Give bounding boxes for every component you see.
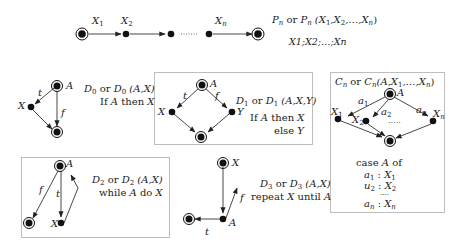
control-structures-diagram: X1 X2 Xn Pn or Pn (X1,X2,…,Xn) X1;X2;…;X… <box>0 0 465 250</box>
cn-node-x1-label: X1 <box>331 106 343 121</box>
d0-node-a-label: A <box>66 80 73 91</box>
d2-node-x-label: X <box>51 218 58 229</box>
d1-node-a-label: A <box>210 78 217 89</box>
seq-code: X1;X2;…;Xn <box>289 36 347 47</box>
d1-title: D1 or D1 (A,X,Y) <box>236 95 316 110</box>
d3-edge-t-label: t <box>205 226 209 237</box>
seq-title: Pn or Pn (X1,X2,…,Xn) <box>272 14 377 29</box>
cn-case-header: case A of <box>356 157 402 168</box>
cn-case-n: an : Xn <box>364 198 396 213</box>
d0-edge-f-label: f <box>61 107 65 118</box>
d2-edge-f-label: f <box>39 184 43 195</box>
d1-description-line2: else Y <box>274 125 304 136</box>
d2-node-a-label: A <box>66 158 73 169</box>
d1-edge-f-label: f <box>215 90 219 101</box>
cn-node-xn-label: Xn <box>433 108 445 123</box>
cn-edge-an-label: an <box>416 104 426 119</box>
d0-description: If A then X <box>100 96 154 107</box>
seq-label-xn: Xn <box>215 15 227 30</box>
d3-node-a-label: A <box>229 217 236 228</box>
d1-node-x-label: X <box>158 106 165 117</box>
d1-description-line1: If A then X <box>250 112 304 123</box>
cn-node-x2-label: X2 <box>352 114 364 129</box>
seq-label-x1: X1 <box>92 15 104 30</box>
d0-edge-t-label: t <box>38 87 42 98</box>
cn-title: Cn or Cn(A,X1,…,Xn) <box>335 76 434 91</box>
d3-description: repeat X until A <box>251 191 331 202</box>
d1-edge-t-label: t <box>183 90 187 101</box>
d2-edge-t-label: t <box>56 188 60 199</box>
d3-edge-f-label: f <box>240 192 244 203</box>
cn-edge-a1-label: a1 <box>358 95 368 110</box>
d3-node-x-label: X <box>232 157 239 168</box>
seq-label-x2: X2 <box>121 15 133 30</box>
d2-description: while A do X <box>99 187 163 198</box>
d0-node-x-label: X <box>18 100 25 111</box>
cn-branch-dots: ····· <box>388 117 401 128</box>
cn-node-a-label: A <box>397 87 404 98</box>
